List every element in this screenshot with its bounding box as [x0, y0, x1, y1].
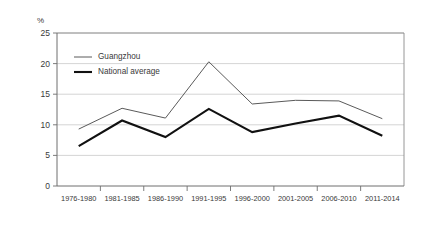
x-tick-label-2001-2005: 2001-2005 — [278, 194, 313, 203]
y-tick-label-10: 10 — [41, 120, 51, 130]
legend-label-national-average: National average — [98, 67, 160, 76]
legend-label-guangzhou: Guangzhou — [98, 52, 141, 61]
x-axis-ticks: 1976-19801981-19851986-19901991-19951996… — [61, 186, 400, 203]
chart-legend: GuangzhouNational average — [74, 52, 160, 76]
series-line-national-average — [79, 109, 383, 146]
x-tick-label-1981-1985: 1981-1985 — [104, 194, 139, 203]
y-tick-label-5: 5 — [45, 150, 50, 160]
y-tick-label-20: 20 — [41, 59, 51, 69]
x-tick-label-1991-1995: 1991-1995 — [191, 194, 226, 203]
x-tick-label-1976-1980: 1976-1980 — [61, 194, 96, 203]
y-axis-ticks: 0510152025 — [41, 28, 57, 191]
y-tick-label-25: 25 — [41, 28, 51, 38]
x-tick-label-2006-2010: 2006-2010 — [321, 194, 356, 203]
y-axis-unit-label: % — [37, 16, 44, 25]
y-tick-label-15: 15 — [41, 89, 51, 99]
line-chart: 0510152025 1976-19801981-19851986-199019… — [0, 0, 431, 228]
y-tick-label-0: 0 — [45, 181, 50, 191]
x-tick-label-1996-2000: 1996-2000 — [235, 194, 270, 203]
x-tick-label-1986-1990: 1986-1990 — [148, 194, 183, 203]
x-tick-label-2011-2014: 2011-2014 — [365, 194, 400, 203]
chart-container: 0510152025 1976-19801981-19851986-199019… — [0, 0, 431, 228]
